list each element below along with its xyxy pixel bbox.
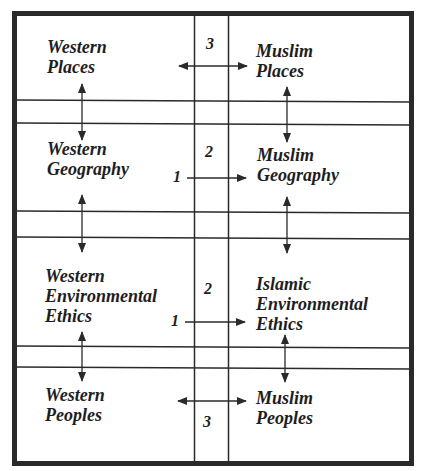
hband-2-top [16,211,410,213]
hband-1-top [16,100,410,102]
connector-label-places: 3 [206,35,214,53]
label-line: Environmental [45,286,157,306]
diagram-canvas: Western Places Muslim Places 3 Western G… [0,0,422,471]
hband-3-top [16,346,410,348]
label-line: Places [256,61,313,81]
label-western-peoples: Western Peoples [45,385,105,425]
label-line: Islamic [256,274,368,294]
label-line: Western [47,139,129,159]
label-line: Western [45,266,157,286]
hband-3-bottom [16,367,410,369]
label-line: Geography [257,165,339,185]
label-muslim-places: Muslim Places [256,41,313,81]
label-line: Muslim [257,145,339,165]
label-islamic-environmental-ethics: Islamic Environmental Ethics [256,274,368,334]
label-line: Western [45,385,105,405]
label-western-environmental-ethics: Western Environmental Ethics [45,266,157,326]
hband-2-bottom [16,237,410,239]
label-line: Muslim [256,41,313,61]
label-line: Muslim [256,388,313,408]
label-line: Western [47,37,107,57]
connector-label-peoples: 3 [203,413,211,431]
label-line: Environmental [256,294,368,314]
label-line: Geography [47,159,129,179]
label-western-geography: Western Geography [47,139,129,179]
connector-label-ethics-start: 1 [171,312,179,330]
label-line: Places [47,57,107,77]
label-western-places: Western Places [47,37,107,77]
label-line: Peoples [45,405,105,425]
label-line: Ethics [256,314,368,334]
label-muslim-geography: Muslim Geography [257,145,339,185]
hband-1-bottom [16,123,410,125]
connector-label-geography-start: 1 [173,168,181,186]
connector-label-ethics-center: 2 [204,280,212,298]
label-line: Ethics [45,306,157,326]
label-line: Peoples [256,408,313,428]
label-muslim-peoples: Muslim Peoples [256,388,313,428]
connector-label-geography-center: 2 [205,143,213,161]
